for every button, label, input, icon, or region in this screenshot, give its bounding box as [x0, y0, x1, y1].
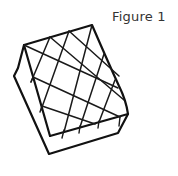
hatch-lines-a: [24, 31, 124, 124]
top-face-left-edge: [24, 45, 50, 136]
box-drawing: [0, 0, 178, 176]
